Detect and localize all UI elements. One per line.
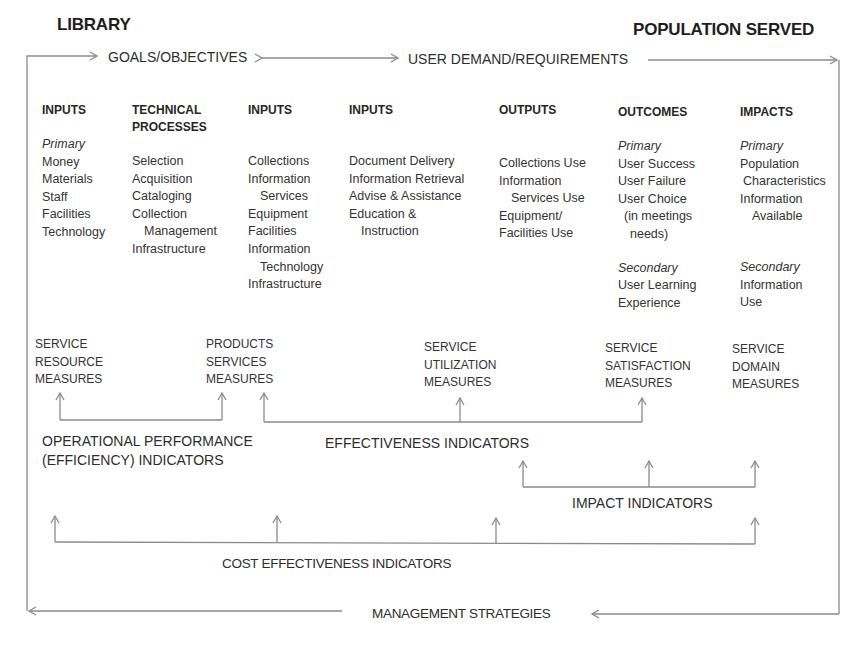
column-item: Services Use	[499, 190, 586, 208]
column-heading: OUTPUTS	[499, 102, 586, 119]
column-item: Money	[42, 154, 105, 172]
goals-objectives-label: GOALS/OBJECTIVES	[108, 49, 247, 65]
indicator-line: (EFFICIENCY) INDICATORS	[42, 451, 253, 470]
column-item: Facilities	[42, 206, 105, 224]
column-item: Information	[740, 191, 826, 209]
column-item: Collections	[248, 153, 323, 171]
column-item: Materials	[42, 171, 105, 189]
column-item: (in meetings	[618, 208, 697, 226]
impact-indicators: IMPACT INDICATORS	[572, 494, 713, 513]
cost-effectiveness-indicators: COST EFFECTIVENESS INDICATORS	[222, 556, 451, 571]
column-item: Population	[740, 156, 826, 174]
column-item: Information	[248, 171, 323, 189]
operational-bracket	[60, 393, 222, 420]
column-item: User Success	[618, 156, 697, 174]
user-demand-label: USER DEMAND/REQUIREMENTS	[408, 51, 628, 67]
column-inputs-services: INPUTS Document Delivery Information Ret…	[349, 102, 464, 241]
column-item: Technology	[42, 224, 105, 242]
column-impacts: IMPACTS Primary Population Characteristi…	[740, 104, 826, 312]
column-item: Services	[248, 188, 323, 206]
column-heading: INPUTS	[248, 102, 323, 119]
effectiveness-bracket	[264, 393, 642, 422]
column-item: Facilities	[248, 223, 323, 241]
column-subheading: Secondary	[740, 259, 826, 277]
measure-line: SATISFACTION	[605, 358, 691, 376]
population-served-title: POPULATION SERVED	[633, 20, 814, 40]
column-inputs-resources: INPUTS Collections Information Services …	[248, 102, 323, 294]
column-item: User Failure	[618, 173, 697, 191]
column-item: Characteristics	[740, 173, 826, 191]
measure-line: SERVICE	[424, 339, 496, 357]
column-item: Information	[740, 277, 826, 295]
column-outputs: OUTPUTS Collections Use Information Serv…	[499, 102, 586, 243]
column-item: Advise & Assistance	[349, 188, 464, 206]
column-item: Available	[740, 208, 826, 226]
impact-bracket	[523, 461, 755, 487]
measure-line: SERVICE	[605, 340, 691, 358]
measure-line: SERVICE	[35, 336, 103, 354]
measure-line: DOMAIN	[732, 359, 799, 377]
column-item: Infrastructure	[248, 276, 323, 294]
column-item: Instruction	[349, 223, 464, 241]
column-item: Management	[132, 223, 217, 241]
effectiveness-indicators: EFFECTIVENESS INDICATORS	[325, 434, 529, 453]
column-item: Collections Use	[499, 155, 586, 173]
column-item: needs)	[618, 226, 697, 244]
cost-effectiveness-bracket	[55, 516, 755, 544]
management-strategies-label: MANAGEMENT STRATEGIES	[372, 606, 550, 621]
column-heading: IMPACTS	[740, 104, 826, 121]
service-resource-measures: SERVICE RESOURCE MEASURES	[35, 336, 103, 389]
column-item: Information	[499, 173, 586, 191]
column-item: User Learning	[618, 277, 697, 295]
column-item: User Choice	[618, 191, 697, 209]
column-item: Equipment/	[499, 208, 586, 226]
measure-line: MEASURES	[605, 375, 691, 393]
column-subheading: Primary	[618, 138, 697, 156]
operational-performance-indicators: OPERATIONAL PERFORMANCE (EFFICIENCY) IND…	[42, 432, 253, 470]
column-heading: INPUTS	[42, 102, 105, 119]
column-item: Education &	[349, 206, 464, 224]
column-item: Information	[248, 241, 323, 259]
column-outcomes: OUTCOMES Primary User Success User Failu…	[618, 104, 697, 312]
column-item: Selection	[132, 153, 217, 171]
measure-line: RESOURCE	[35, 354, 103, 372]
indicator-line: OPERATIONAL PERFORMANCE	[42, 432, 253, 451]
column-item: Document Delivery	[349, 153, 464, 171]
column-item: Equipment	[248, 206, 323, 224]
service-utilization-measures: SERVICE UTILIZATION MEASURES	[424, 339, 496, 392]
service-domain-measures: SERVICE DOMAIN MEASURES	[732, 341, 799, 394]
measure-line: PRODUCTS	[206, 336, 273, 354]
measure-line: MEASURES	[35, 371, 103, 389]
column-item: Infrastructure	[132, 241, 217, 259]
column-item: Cataloging	[132, 188, 217, 206]
service-satisfaction-measures: SERVICE SATISFACTION MEASURES	[605, 340, 691, 393]
column-technical-processes: TECHNICAL PROCESSES Selection Acquisitio…	[132, 102, 217, 259]
measure-line: SERVICE	[732, 341, 799, 359]
connector-arrows	[0, 0, 859, 646]
measure-line: MEASURES	[732, 376, 799, 394]
column-item: Information Retrieval	[349, 171, 464, 189]
measure-line: MEASURES	[424, 374, 496, 392]
column-subheading: Primary	[740, 138, 826, 156]
column-heading: OUTCOMES	[618, 104, 697, 121]
column-heading: TECHNICAL	[132, 102, 217, 119]
column-item: Acquisition	[132, 171, 217, 189]
column-heading: PROCESSES	[132, 119, 217, 136]
column-item: Experience	[618, 295, 697, 313]
column-item: Staff	[42, 189, 105, 207]
column-inputs-primary: INPUTS Primary Money Materials Staff Fac…	[42, 102, 105, 242]
products-services-measures: PRODUCTS SERVICES MEASURES	[206, 336, 273, 389]
column-item: Use	[740, 294, 826, 312]
column-item: Technology	[248, 259, 323, 277]
column-heading: INPUTS	[349, 102, 464, 119]
measure-line: MEASURES	[206, 371, 273, 389]
measure-line: UTILIZATION	[424, 357, 496, 375]
column-subheading: Primary	[42, 136, 105, 154]
column-subheading: Secondary	[618, 260, 697, 278]
column-item: Collection	[132, 206, 217, 224]
column-item: Facilities Use	[499, 225, 586, 243]
library-title: LIBRARY	[57, 15, 131, 35]
measure-line: SERVICES	[206, 354, 273, 372]
